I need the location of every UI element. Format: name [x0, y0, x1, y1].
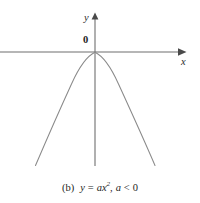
caption-index: (b): [62, 182, 74, 193]
caption-condition-value: 0: [133, 182, 138, 193]
caption-condition-symbol: a: [116, 182, 121, 193]
x-axis-label: x: [181, 57, 186, 68]
caption-comma: ,: [110, 182, 113, 193]
arrow-right-icon: [178, 48, 187, 56]
y-axis-label: y: [84, 13, 89, 24]
parabola-figure: y x 0 (b)y=ax2,a<0: [0, 0, 200, 203]
caption-relation-sign: <: [124, 182, 130, 193]
caption-dependent-variable: y: [80, 182, 85, 193]
figure-caption: (b)y=ax2,a<0: [0, 180, 200, 194]
origin-label: 0: [83, 35, 88, 46]
coordinate-plot: [0, 0, 200, 175]
caption-equals-sign: =: [88, 182, 94, 193]
arrow-up-icon: [92, 13, 99, 20]
